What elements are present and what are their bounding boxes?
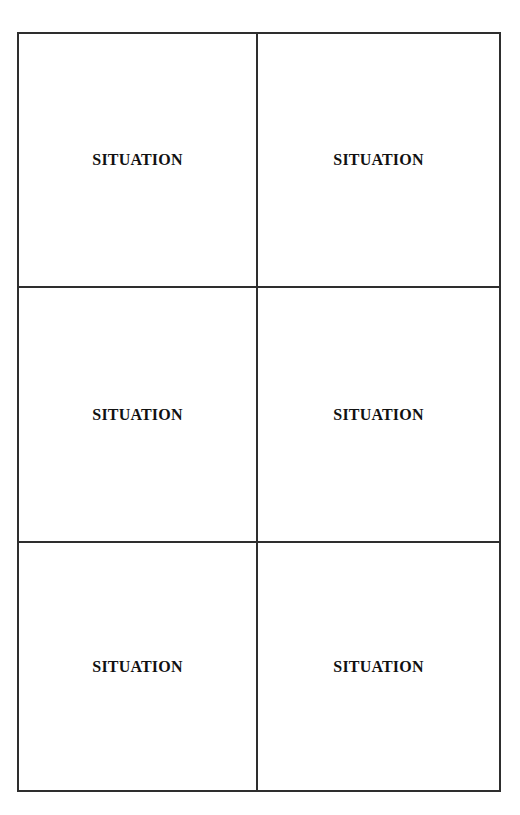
- grid-cell-r1-c2: SITUATION: [258, 34, 499, 288]
- cell-label: SITUATION: [333, 406, 423, 424]
- grid-cell-r2-c2: SITUATION: [258, 288, 499, 543]
- grid-cell-r1-c1: SITUATION: [19, 34, 258, 288]
- cell-label: SITUATION: [92, 658, 182, 676]
- grid-cell-r3-c2: SITUATION: [258, 543, 499, 790]
- cell-label: SITUATION: [333, 151, 423, 169]
- grid-cell-r2-c1: SITUATION: [19, 288, 258, 543]
- grid-cell-r3-c1: SITUATION: [19, 543, 258, 790]
- cell-label: SITUATION: [333, 658, 423, 676]
- cell-label: SITUATION: [92, 151, 182, 169]
- cell-label: SITUATION: [92, 406, 182, 424]
- situation-grid: SITUATION SITUATION SITUATION SITUATION …: [17, 32, 501, 792]
